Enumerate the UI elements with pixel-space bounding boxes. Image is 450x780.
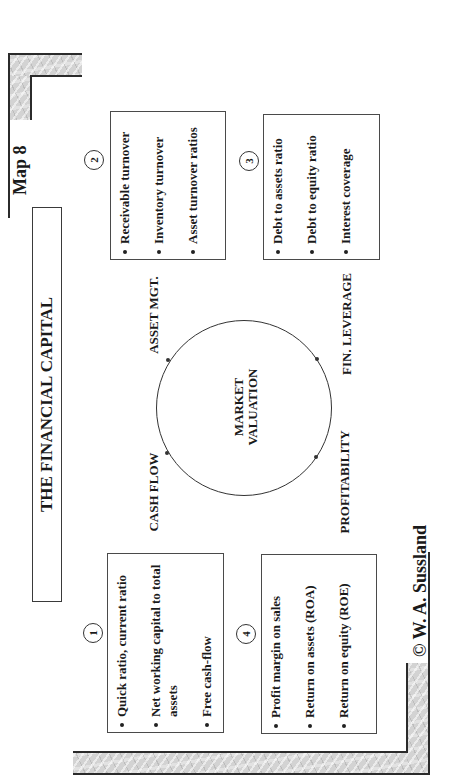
bullet-icon: [120, 723, 124, 727]
frame-right-outer-line: [8, 53, 82, 55]
frame-top-inner-line: [30, 75, 32, 120]
list-item: Quick ratio, current ratio: [113, 557, 130, 727]
list-item-text: Debt to assets ratio: [269, 118, 286, 244]
list-item: Profit margin on sales: [267, 558, 284, 728]
circle-node-asset-mgt: [166, 358, 170, 362]
circle-node-cash-flow: [165, 451, 169, 455]
label-profitability: PROFITABILITY: [337, 430, 352, 533]
list-item: Free cash-flow: [198, 557, 215, 727]
list-item-text: Profit margin on sales: [267, 558, 284, 718]
circle-node-fin-leverage: [315, 357, 319, 361]
bullet-icon: [310, 250, 314, 254]
list-item-text: Return on equity (ROE): [335, 558, 352, 718]
list-item-text: Asset turnover ratios: [184, 115, 201, 244]
label-fin-leverage: FIN. LEVERAGE: [339, 273, 354, 375]
bullet-icon: [308, 724, 312, 728]
list-item-text: Interest coverage: [337, 118, 354, 244]
badge-2: 2: [84, 150, 104, 170]
badge-4: 4: [236, 624, 256, 644]
frame-corner-bottom-marble-horizontal: [407, 663, 429, 774]
list-item-text: Net working capital to total assets: [147, 557, 181, 717]
bullet-icon: [191, 250, 195, 254]
list-item-text: Quick ratio, current ratio: [113, 557, 130, 717]
bullet-icon: [123, 250, 127, 254]
badge-1-number: 1: [88, 630, 99, 636]
frame-corner-top-marble-vertical: [9, 54, 82, 76]
bullet-icon: [157, 250, 161, 254]
list-item: Return on assets (ROA): [301, 558, 318, 728]
list-item: Return on equity (ROE): [335, 558, 352, 728]
frame-bottom-inner-line: [406, 663, 408, 753]
frame-corner-bottom-marble-vertical: [73, 752, 429, 774]
circle-node-profitability: [314, 455, 318, 459]
center-label-line1: MARKET: [232, 369, 246, 446]
list-item-text: Receivable turnover: [116, 115, 133, 244]
list-item: Receivable turnover: [116, 115, 133, 254]
list-item-text: Debt to equity ratio: [303, 118, 320, 244]
badge-4-number: 4: [241, 631, 252, 637]
frame-left-inner-line: [73, 751, 408, 753]
bullet-icon: [274, 724, 278, 728]
label-asset-mgt: ASSET MGT.: [146, 276, 161, 354]
label-cash-flow: CASH FLOW: [146, 452, 161, 531]
box-cash-flow-ratios: Quick ratio, current ratio Net working c…: [107, 553, 224, 733]
list-item: Debt to equity ratio: [303, 118, 320, 254]
list-item: Asset turnover ratios: [184, 115, 201, 254]
box-asset-mgt-ratios: Receivable turnover Inventory turnover A…: [110, 111, 226, 260]
bullet-icon: [344, 250, 348, 254]
badge-1: 1: [83, 623, 103, 643]
center-label: MARKET VALUATION: [232, 369, 260, 446]
list-item: Net working capital to total assets: [147, 557, 181, 727]
frame-right-inner-line: [30, 75, 82, 77]
copyright-notice: © W. A. Sussland: [410, 525, 430, 657]
list-item-text: Return on assets (ROA): [301, 558, 318, 718]
page-title: THE FINANCIAL CAPITAL: [37, 297, 57, 512]
list-item-text: Inventory turnover: [150, 115, 167, 244]
bullet-icon: [276, 250, 280, 254]
frame-left-outer-line: [73, 773, 430, 775]
badge-3: 3: [239, 151, 259, 171]
center-label-line2: VALUATION: [246, 369, 260, 446]
badge-2-number: 2: [89, 157, 100, 163]
list-item: Interest coverage: [337, 118, 354, 254]
list-item: Debt to assets ratio: [269, 118, 286, 254]
box-profitability-ratios: Profit margin on sales Return on assets …: [261, 554, 377, 734]
bullet-icon: [342, 724, 346, 728]
list-item-text: Free cash-flow: [198, 557, 215, 717]
bullet-icon: [205, 723, 209, 727]
box-fin-leverage-ratios: Debt to assets ratio Debt to equity rati…: [263, 114, 380, 260]
bullet-icon: [154, 723, 158, 727]
badge-3-number: 3: [244, 158, 255, 164]
list-item: Inventory turnover: [150, 115, 167, 254]
slide-landscape: Map 8 THE FINANCIAL CAPITAL MARKET VALUA…: [0, 0, 450, 780]
map-label: Map 8: [9, 146, 31, 196]
title-box: THE FINANCIAL CAPITAL: [32, 207, 62, 602]
